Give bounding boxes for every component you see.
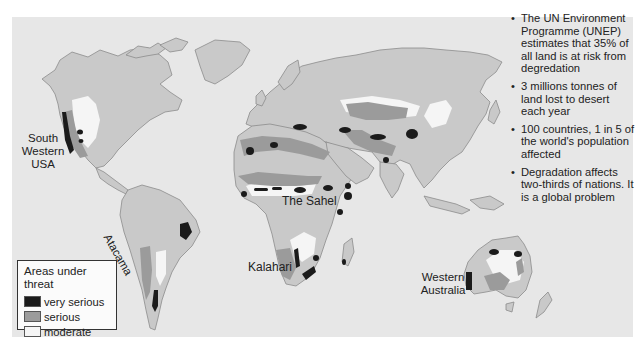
label-line: USA <box>20 158 66 171</box>
moderate-swatch <box>24 326 41 337</box>
facts-panel: The UN Environment Programme (UNEP) esti… <box>511 12 636 208</box>
very-serious-swatch <box>24 296 41 307</box>
fact-item: Degradation affects two-thirds of nation… <box>511 166 636 204</box>
label-south-western-usa: South Western USA <box>20 132 66 171</box>
label-line: Western <box>418 271 468 284</box>
label-line: South <box>20 132 66 145</box>
label-kalahari: Kalahari <box>248 261 292 274</box>
legend-item-moderate: moderate <box>24 324 116 339</box>
legend-label: moderate <box>44 326 91 338</box>
legend-label: very serious <box>44 296 104 308</box>
label-line: Western <box>20 145 66 158</box>
map-legend: Areas under threat very serious serious … <box>17 260 117 330</box>
label-the-sahel: The Sahel <box>282 195 337 208</box>
fact-item: The UN Environment Programme (UNEP) esti… <box>511 12 636 75</box>
serious-swatch <box>24 311 41 322</box>
legend-label: serious <box>44 311 80 323</box>
facts-list: The UN Environment Programme (UNEP) esti… <box>511 12 636 203</box>
legend-item-very-serious: very serious <box>24 294 116 309</box>
legend-item-serious: serious <box>24 309 116 324</box>
fact-item: 100 countries, 1 in 5 of the world's pop… <box>511 123 636 161</box>
fact-item: 3 millions tonnes of land lost to desert… <box>511 80 636 118</box>
label-line: Australia <box>418 284 468 297</box>
greenland <box>195 40 250 84</box>
legend-title: Areas under threat <box>24 265 116 291</box>
label-western-australia: Western Australia <box>418 271 468 297</box>
